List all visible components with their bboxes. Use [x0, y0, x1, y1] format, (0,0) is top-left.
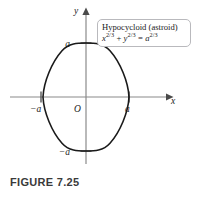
figure-caption: FIGURE 7.25 — [10, 176, 79, 188]
y-tick-label-negative-a: −a — [59, 147, 70, 157]
x-tick-label-positive-a: a — [125, 104, 130, 114]
callout-equation: x2/3 + y2/3 = a2/3 — [102, 33, 186, 44]
x-axis-label: x — [170, 96, 176, 106]
equation-y-exponent: 2/3 — [128, 31, 136, 38]
y-axis-label: y — [73, 6, 79, 16]
callout-title: Hypocycloid (astroid) — [102, 22, 186, 33]
y-axis-arrowhead — [82, 8, 89, 16]
equation-callout-box: Hypocycloid (astroid) x2/3 + y2/3 = a2/3 — [97, 19, 191, 47]
origin-label: O — [74, 104, 81, 114]
y-tick-label-positive-a: a — [65, 39, 70, 49]
figure-container: y x O −a a a −a Hypocycloid (astroid) x2… — [0, 0, 200, 198]
x-tick-label-negative-a: −a — [30, 104, 41, 114]
equation-a-exponent: 2/3 — [150, 31, 158, 38]
equation-x-exponent: 2/3 — [106, 31, 114, 38]
